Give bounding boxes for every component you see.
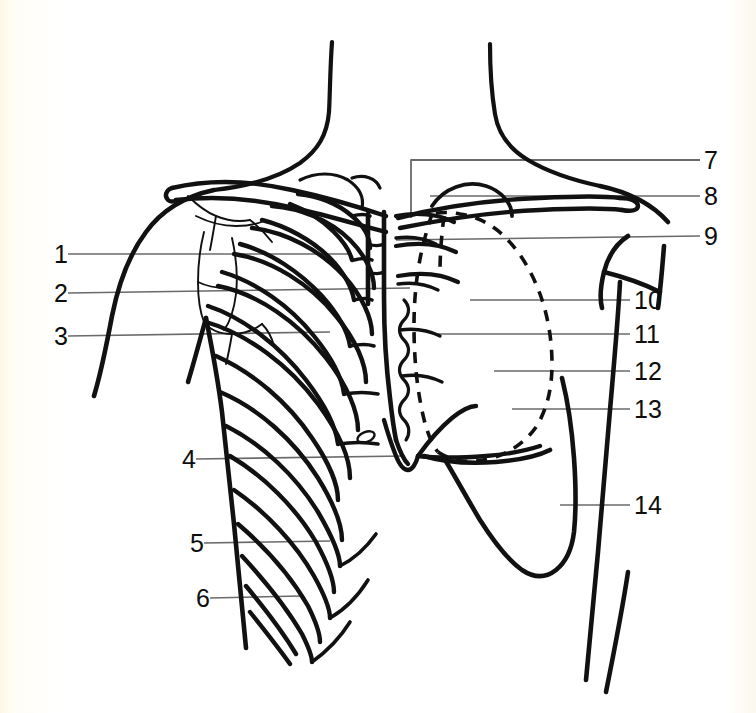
neck-outline: [214, 42, 600, 190]
label-8[interactable]: 8: [704, 184, 718, 209]
heart-outline: [414, 213, 552, 462]
rib-cage: [206, 194, 374, 664]
label-11[interactable]: 11: [634, 322, 660, 347]
label-13[interactable]: 13: [634, 397, 662, 422]
lung-border-right: [424, 378, 576, 576]
label-3[interactable]: 3: [54, 324, 68, 349]
label-6[interactable]: 6: [196, 586, 210, 611]
label-10[interactable]: 10: [634, 288, 662, 313]
xiphoid-process: [384, 420, 418, 470]
label-2[interactable]: 2: [54, 281, 68, 306]
diagram-canvas: 1 2 3 4 5 6 7 8 9 10 11 12 13 14: [0, 0, 756, 713]
label-7[interactable]: 7: [704, 148, 718, 173]
label-5[interactable]: 5: [190, 531, 204, 556]
shoulder-outline-right: [600, 186, 668, 222]
label-9[interactable]: 9: [704, 224, 718, 249]
mediastinal-edge: [400, 300, 409, 440]
label-12[interactable]: 12: [634, 359, 662, 384]
label-14[interactable]: 14: [634, 493, 662, 518]
label-4[interactable]: 4: [182, 447, 196, 472]
label-1[interactable]: 1: [54, 242, 68, 267]
